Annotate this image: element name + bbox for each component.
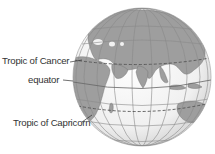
globe-diagram: Tropic of Cancer equator Tropic of Capri…	[0, 0, 215, 154]
label-tropic-of-capricorn: Tropic of Capricorn	[13, 117, 90, 128]
label-tropic-of-cancer: Tropic of Cancer	[2, 55, 69, 66]
label-equator: equator	[28, 74, 59, 85]
